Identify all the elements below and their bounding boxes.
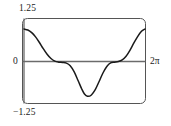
y-axis-min-label: −1.25 — [13, 108, 35, 118]
y-axis-zero-label: 0 — [13, 57, 18, 67]
x-axis-max-label: 2π — [150, 57, 160, 67]
chart-figure: 1.25 0 −1.25 2π — [0, 0, 171, 126]
y-axis-max-label: 1.25 — [19, 4, 36, 14]
function-curve — [24, 29, 145, 96]
